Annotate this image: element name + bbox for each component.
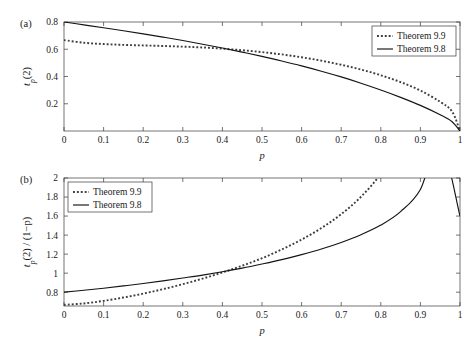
x-tick-label: 0.6 (296, 135, 308, 145)
legend: Theorem 9.9Theorem 9.8 (68, 182, 152, 212)
x-tick-label: 0.2 (137, 135, 149, 145)
figure-container: (a)00.10.20.30.40.50.60.70.80.910.20.40.… (0, 0, 476, 347)
x-tick-label: 0.3 (177, 135, 189, 145)
y-tick-label: 1 (53, 269, 58, 279)
x-tick-label: 0.2 (137, 310, 149, 320)
x-tick-label: 0.9 (414, 135, 426, 145)
curve-theorem-9-8 (64, 142, 460, 293)
legend-label: Theorem 9.8 (93, 200, 142, 210)
y-tick-label: 1.6 (46, 211, 58, 221)
y-tick-label: 0.6 (46, 45, 58, 55)
y-tick-label: 1.2 (46, 250, 58, 260)
y-tick-label: 0.8 (46, 17, 58, 27)
x-tick-label: 0.4 (216, 310, 228, 320)
chart-svg: (a)00.10.20.30.40.50.60.70.80.910.20.40.… (0, 0, 476, 347)
x-tick-label: 0.8 (375, 310, 387, 320)
y-tick-label: 1.8 (46, 192, 58, 202)
panel-a: (a)00.10.20.30.40.50.60.70.80.910.20.40.… (20, 17, 463, 161)
x-tick-label: 0.8 (375, 135, 387, 145)
y-tick-label: 2 (53, 173, 58, 183)
x-tick-label: 0.9 (414, 310, 426, 320)
x-tick-label: 0.7 (335, 135, 347, 145)
panel-tag-b: (b) (20, 174, 33, 186)
x-axis-label: p (258, 150, 264, 161)
x-tick-label: 0.5 (256, 310, 268, 320)
y-axis-label: tp(2) / (1−p) (21, 216, 37, 267)
x-tick-label: 1 (458, 135, 463, 145)
legend: Theorem 9.9Theorem 9.8 (372, 26, 456, 56)
x-tick-label: 0.4 (216, 135, 228, 145)
x-tick-label: 0 (62, 135, 67, 145)
x-axis-label: p (258, 325, 264, 336)
x-tick-label: 0.1 (98, 310, 110, 320)
x-tick-label: 1 (458, 310, 463, 320)
y-tick-label: 0.2 (46, 99, 58, 109)
y-axis-label: tp(2) (21, 67, 37, 86)
legend-label: Theorem 9.9 (397, 31, 446, 41)
y-tick-label: 1.4 (46, 231, 58, 241)
y-tick-label: 0.8 (46, 288, 58, 298)
panel-tag-a: (a) (20, 18, 32, 30)
legend-label: Theorem 9.9 (93, 187, 142, 197)
x-tick-label: 0.6 (296, 310, 308, 320)
x-tick-label: 0.5 (256, 135, 268, 145)
legend-label: Theorem 9.8 (397, 44, 446, 54)
x-tick-label: 0 (62, 310, 67, 320)
x-tick-label: 0.7 (335, 310, 347, 320)
x-tick-label: 0.1 (98, 135, 110, 145)
y-tick-label: 0.4 (46, 72, 58, 82)
x-tick-label: 0.3 (177, 310, 189, 320)
